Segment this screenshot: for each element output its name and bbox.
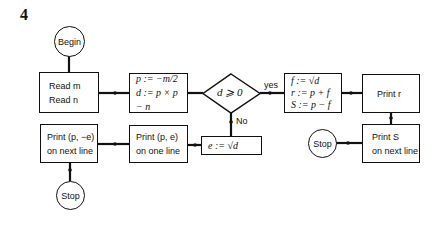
print-p-e-box: Print (p, e) on one line [129, 125, 188, 163]
print-p-e-one-line: on one line [136, 144, 187, 158]
read-m-line: Read m [49, 79, 98, 93]
stop-right-label: Stop [313, 139, 332, 149]
print-r-label: Print r [377, 87, 419, 101]
print-p-e-line: Print (p, e) [136, 130, 187, 144]
print-s-line: Print S [372, 130, 419, 144]
print-r-box: Print r [362, 74, 420, 113]
stop-left-label: Stop [61, 191, 80, 201]
stop-node-left: Stop [56, 181, 85, 210]
read-n-line: Read n [49, 93, 98, 107]
decision-condition: d ⩾ 0 [217, 86, 243, 99]
compute-p-d-box: p := −m/2 d := p × p − n [129, 73, 188, 113]
print-p-neg-e-line: Print (p, −e) [47, 130, 97, 144]
print-p-neg-e-next-line: on next line [47, 144, 97, 158]
assign-s-line: S := p − f [291, 99, 341, 111]
assign-p-line: p := −m/2 [136, 72, 187, 86]
no-branch-label: No [236, 116, 248, 126]
print-s-next-line: on next line [372, 144, 419, 158]
compute-e-box: e := √d [201, 136, 262, 155]
print-p-neg-e-box: Print (p, −e) on next line [40, 124, 98, 163]
print-s-box: Print S on next line [362, 124, 420, 163]
assign-e-line: e := √d [208, 139, 261, 153]
assign-f-line: f := √d [291, 75, 341, 87]
begin-node: Begin [54, 26, 85, 57]
stop-node-right: Stop [308, 129, 337, 158]
read-inputs-box: Read m Read n [39, 72, 99, 113]
yes-branch-label: yes [264, 80, 278, 90]
assign-r-line: r := p + f [291, 87, 341, 99]
assign-d-line: d := p × p − n [136, 86, 187, 114]
begin-label: Begin [58, 37, 81, 47]
compute-f-r-s-box: f := √d r := p + f S := p − f [284, 73, 342, 113]
